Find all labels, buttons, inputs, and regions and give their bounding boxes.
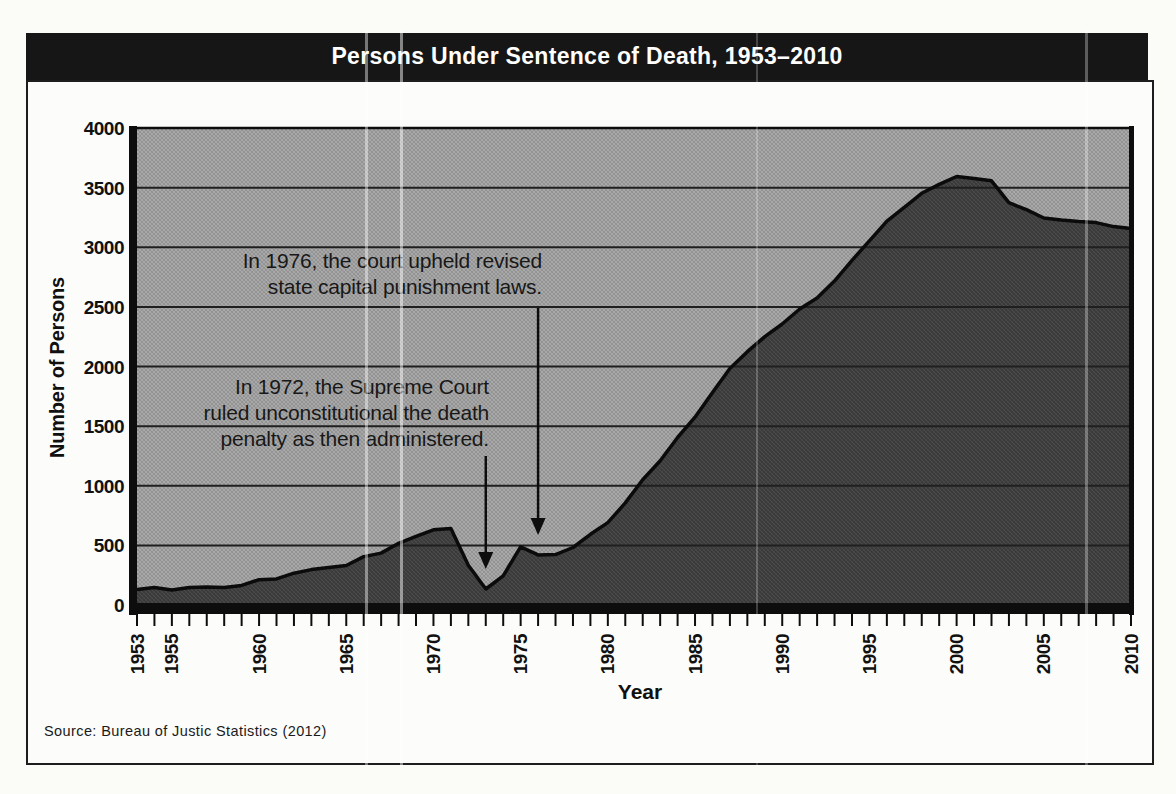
figure-frame [26,80,1154,765]
x-axis-title: Year [540,680,740,704]
chart-title: Persons Under Sentence of Death, 1953–20… [331,43,842,69]
figure-page: Persons Under Sentence of Death, 1953–20… [0,0,1176,794]
source-note: Source: Bureau of Justic Statistics (201… [44,723,327,739]
y-axis-title: Number of Persons [46,260,69,475]
chart-title-banner: Persons Under Sentence of Death, 1953–20… [26,33,1148,80]
annotation-1976: In 1976, the court upheld revised state … [243,248,542,300]
annotation-1972: In 1972, the Supreme Court ruled unconst… [204,374,489,452]
